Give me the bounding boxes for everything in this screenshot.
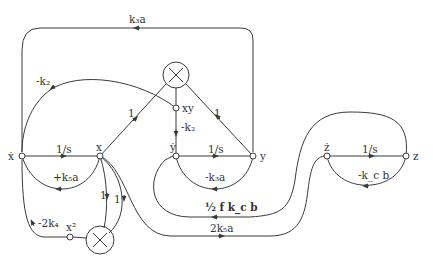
label-x-multbot-a: 1	[100, 190, 107, 201]
label-node-ydot: ẏ	[170, 142, 176, 153]
edge-k3a	[22, 28, 253, 152]
label-z-ydot: ½ f k_c b	[205, 202, 258, 213]
label-zdot-z: 1/s	[362, 144, 378, 155]
node-ydot	[173, 153, 179, 159]
label-xy-xdot: -k₂	[36, 76, 50, 87]
label-node-y: y	[260, 151, 266, 162]
label-k5a: +k₅a	[53, 172, 79, 183]
label-ydot-y: 1/s	[208, 144, 224, 155]
signal-flow-diagram: ẋ x xy ẏ y ż z x² k₃a -k₂ 1/s +k₅a 1 1 -…	[0, 0, 433, 263]
label-y-mult: 1	[214, 108, 221, 119]
label-node-xdot: ẋ	[8, 151, 14, 162]
label-x-multbot-b: 1	[114, 194, 121, 205]
label-k3a-neg: -k₃a	[205, 172, 225, 183]
label-x-zdot: 2k₅a	[210, 223, 234, 234]
label-xy-ydot: -k₂	[181, 122, 195, 133]
node-x2	[67, 234, 73, 240]
label-x-mult: 1	[128, 108, 135, 119]
label-node-xy: xy	[182, 103, 194, 114]
label-xdot-x: 1/s	[56, 144, 72, 155]
node-y	[250, 153, 256, 159]
label-node-z: z	[413, 151, 419, 162]
label-node-zdot: ż	[324, 142, 330, 153]
label-kcb: -k_c b	[358, 170, 389, 181]
node-xy	[173, 105, 179, 111]
node-x	[97, 153, 103, 159]
node-zdot	[324, 153, 330, 159]
edge-x-mult	[100, 84, 166, 156]
node-xdot	[19, 153, 25, 159]
label-k3a: k₃a	[129, 14, 146, 25]
label-node-x2: x²	[66, 222, 76, 233]
label-node-x: x	[96, 142, 102, 153]
label-x2-xdot: -2k₄	[38, 218, 59, 229]
node-z	[403, 153, 409, 159]
